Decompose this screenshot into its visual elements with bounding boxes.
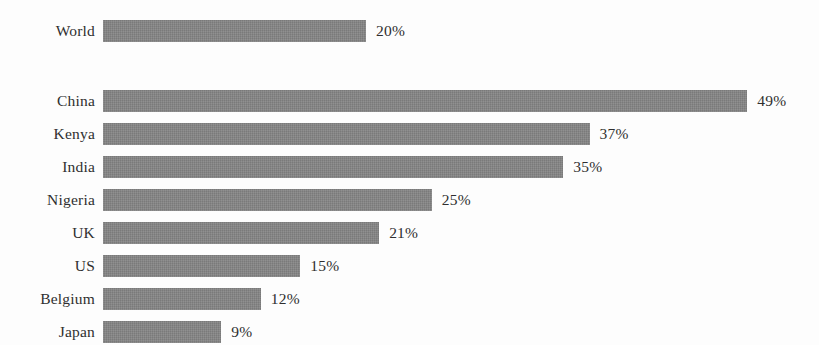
bar-row: Belgium12% <box>0 288 819 310</box>
bar-row: Japan9% <box>0 321 819 343</box>
bar-value-label: 21% <box>389 225 418 241</box>
bar <box>103 123 590 145</box>
bar-row: World20% <box>0 20 819 42</box>
bar <box>103 288 261 310</box>
bar-row: UK21% <box>0 222 819 244</box>
category-label: Nigeria <box>0 192 95 208</box>
bar-row: Nigeria25% <box>0 189 819 211</box>
bar-value-label: 9% <box>231 324 252 340</box>
bar-row: US15% <box>0 255 819 277</box>
category-label: US <box>0 258 95 274</box>
bar <box>103 222 379 244</box>
category-label: India <box>0 159 95 175</box>
bar-value-label: 49% <box>757 93 786 109</box>
bar-value-label: 25% <box>442 192 471 208</box>
bar-chart: World20%China49%Kenya37%India35%Nigeria2… <box>0 0 819 345</box>
bar-row: India35% <box>0 156 819 178</box>
category-label: Japan <box>0 324 95 340</box>
bar <box>103 156 563 178</box>
category-label: China <box>0 93 95 109</box>
category-label: World <box>0 23 95 39</box>
bar-value-label: 12% <box>271 291 300 307</box>
category-label: Belgium <box>0 291 95 307</box>
bar-row: China49% <box>0 90 819 112</box>
bar <box>103 90 747 112</box>
category-label: UK <box>0 225 95 241</box>
bar <box>103 255 300 277</box>
bar-value-label: 35% <box>573 159 602 175</box>
bar-value-label: 37% <box>600 126 629 142</box>
bar-value-label: 15% <box>310 258 339 274</box>
bar <box>103 189 432 211</box>
bar-row: Kenya37% <box>0 123 819 145</box>
bar-value-label: 20% <box>376 23 405 39</box>
chart-plot-area: World20%China49%Kenya37%India35%Nigeria2… <box>0 0 819 345</box>
category-label: Kenya <box>0 126 95 142</box>
bar <box>103 20 366 42</box>
bar <box>103 321 221 343</box>
